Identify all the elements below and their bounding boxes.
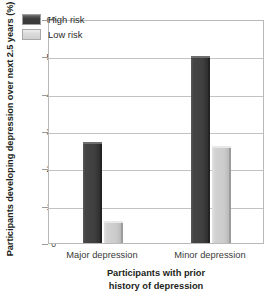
low-risk-swatch-icon bbox=[22, 29, 41, 40]
legend-item-low-risk: Low risk bbox=[22, 27, 84, 42]
legend-label-high-risk: High risk bbox=[48, 14, 84, 25]
x-axis-category-label: Minor depression bbox=[174, 250, 245, 260]
plot-area bbox=[48, 20, 264, 244]
bar-high-risk-major-depression bbox=[83, 142, 102, 243]
bar-top-highlight bbox=[104, 221, 123, 223]
x-axis-title-line-1: Participants with prior bbox=[48, 267, 264, 280]
bar-face bbox=[212, 146, 231, 243]
y-axis-title-text: Participants developing depression over … bbox=[5, 2, 15, 257]
bar-chart-figure: Participants developing depression over … bbox=[0, 0, 280, 294]
bar-face bbox=[83, 142, 102, 243]
y-axis-tick-mark bbox=[42, 244, 48, 245]
legend-item-high-risk: High risk bbox=[22, 12, 84, 27]
bar-low-risk-major-depression bbox=[104, 221, 123, 243]
x-axis-category-label: Major depression bbox=[66, 250, 137, 260]
bar-face bbox=[104, 221, 123, 243]
bar-top-highlight bbox=[83, 142, 102, 144]
legend-label-low-risk: Low risk bbox=[48, 29, 82, 40]
bar-top-highlight bbox=[191, 56, 210, 58]
bar-low-risk-minor-depression bbox=[212, 146, 231, 243]
bar-top-highlight bbox=[212, 146, 231, 148]
high-risk-swatch-icon bbox=[22, 14, 41, 25]
gridline bbox=[49, 133, 263, 134]
legend: High risk Low risk bbox=[22, 12, 84, 42]
x-axis-title: Participants with prior history of depre… bbox=[48, 267, 264, 292]
gridline bbox=[49, 96, 263, 97]
y-axis-title: Participants developing depression over … bbox=[0, 0, 20, 258]
bar-high-risk-minor-depression bbox=[191, 56, 210, 243]
bar-face bbox=[191, 56, 210, 243]
x-axis-title-line-2: history of depression bbox=[48, 280, 264, 293]
gridline bbox=[49, 58, 263, 59]
